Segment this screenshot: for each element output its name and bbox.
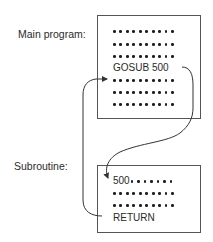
flow-arrows (0, 0, 213, 242)
gosub-arrow (107, 67, 194, 178)
return-arrow (83, 79, 107, 216)
